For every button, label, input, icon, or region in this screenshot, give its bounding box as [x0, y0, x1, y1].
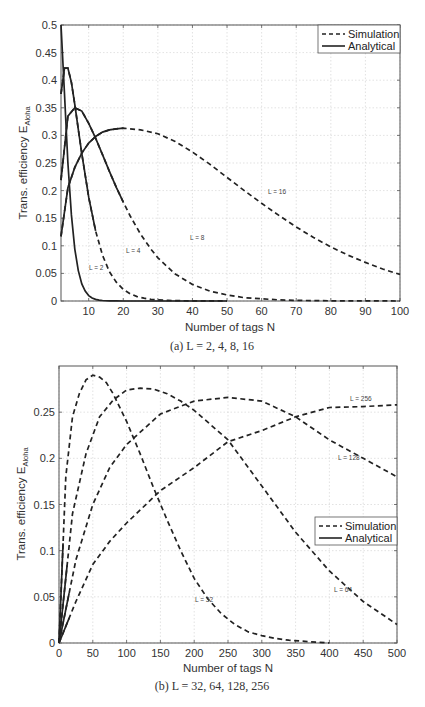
ticks-a: 10203040506070809010000.050.10.150.20.25…	[36, 19, 410, 317]
x-tick-label: 40	[186, 305, 198, 317]
legend-a: Simulation Analytical	[318, 25, 400, 53]
plot-a: 10203040506070809010000.050.10.150.20.25…	[17, 19, 409, 353]
y-tick-label: 0.25	[34, 406, 55, 418]
legend-simulation: Simulation	[348, 28, 399, 40]
y-tick-label: 0	[49, 637, 55, 649]
label-l32: L = 32	[195, 596, 213, 603]
label-l4: L = 4	[126, 247, 141, 254]
series-L=16	[61, 128, 400, 274]
figure: 10203040506070809010000.050.10.150.20.25…	[0, 0, 425, 707]
legend-analytical: Analytical	[348, 40, 395, 52]
analytical-L=4	[61, 68, 96, 231]
y-axis-label-a: Trans. efficiency EAloha	[17, 106, 32, 220]
x-tick-label: 350	[286, 647, 304, 659]
x-tick-label: 300	[253, 647, 271, 659]
label-l128: L = 128	[338, 454, 360, 461]
legend-b: Simulation Analytical	[315, 517, 397, 545]
x-tick-label: 10	[83, 305, 95, 317]
svg-text:Trans. efficiency EAloha: Trans. efficiency EAloha	[17, 106, 32, 220]
y-tick-label: 0.25	[36, 157, 57, 169]
y-tick-label: 0.15	[34, 499, 55, 511]
svg-text:Trans. efficiency EAloha: Trans. efficiency EAloha	[15, 447, 30, 561]
x-tick-label: 60	[256, 305, 268, 317]
y-tick-label: 0.05	[34, 591, 55, 603]
y-tick-label: 0.5	[42, 19, 57, 31]
y-tick-label: 0	[51, 295, 57, 307]
plot-b: 05010015020025030035040045050000.050.10.…	[15, 366, 406, 693]
x-tick-label: 200	[185, 647, 203, 659]
x-tick-label: 80	[325, 305, 337, 317]
x-tick-label: 50	[87, 647, 99, 659]
x-tick-label: 500	[388, 647, 406, 659]
y-tick-label: 0.4	[42, 74, 57, 86]
x-tick-label: 250	[219, 647, 237, 659]
series-L=8	[61, 108, 400, 301]
label-l2: L = 2	[89, 264, 104, 271]
y-axis-label-b: Trans. efficiency EAloha	[15, 447, 30, 561]
x-axis-label-a: Number of tags N	[185, 321, 275, 333]
x-tick-label: 400	[320, 647, 338, 659]
ticks-b: 05010015020025030035040045050000.050.10.…	[34, 366, 407, 659]
y-tick-label: 0.35	[36, 102, 57, 114]
y-tick-label: 0.2	[40, 452, 55, 464]
caption-b: (b) L = 32, 64, 128, 256	[155, 679, 270, 693]
caption-a: (a) L = 2, 4, 8, 16	[170, 339, 254, 353]
label-l8: L = 8	[190, 234, 205, 241]
grid-a	[61, 25, 400, 301]
legend-simulation: Simulation	[345, 520, 396, 532]
y-tick-label: 0.2	[42, 185, 57, 197]
x-tick-label: 150	[151, 647, 169, 659]
y-tick-label: 0.3	[42, 129, 57, 141]
x-tick-label: 0	[56, 647, 62, 659]
x-axis-label-b: Number of tags N	[183, 662, 273, 674]
x-tick-label: 90	[359, 305, 371, 317]
x-tick-label: 70	[290, 305, 302, 317]
x-tick-label: 20	[117, 305, 129, 317]
x-tick-label: 450	[354, 647, 372, 659]
y-tick-label: 0.15	[36, 212, 57, 224]
y-tick-label: 0.45	[36, 47, 57, 59]
label-l16: L = 16	[268, 188, 286, 195]
y-tick-label: 0.05	[36, 267, 57, 279]
legend-analytical: Analytical	[345, 532, 392, 544]
x-tick-label: 100	[117, 647, 135, 659]
x-tick-label: 50	[221, 305, 233, 317]
label-l64: L = 64	[334, 586, 352, 593]
label-l256: L = 256	[350, 395, 372, 402]
y-tick-label: 0.1	[42, 240, 57, 252]
x-tick-label: 100	[391, 305, 409, 317]
y-tick-label: 0.1	[40, 545, 55, 557]
x-tick-label: 30	[152, 305, 164, 317]
